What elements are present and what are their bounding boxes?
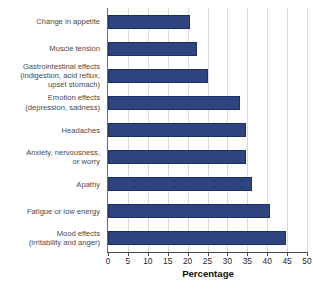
category-label: Mood effects (irritability and anger): [0, 229, 100, 248]
x-axis-tick-labels: 05101520253035404550: [0, 256, 313, 268]
x-axis-tick-label: 30: [223, 256, 232, 266]
category-label: Emotion effects (depression, sadness): [0, 93, 100, 112]
category-axis-labels: Change in appetiteMuscle tensionGastroin…: [0, 8, 104, 252]
bar: [108, 69, 208, 83]
x-axis-tick-label: 0: [106, 256, 111, 266]
x-axis-title: Percentage: [108, 268, 308, 279]
bar: [108, 96, 240, 110]
gridline: [307, 8, 308, 252]
category-label: Headaches: [0, 126, 100, 135]
bar-chart: Change in appetiteMuscle tensionGastroin…: [0, 0, 313, 292]
x-axis-tick-label: 10: [143, 256, 152, 266]
x-axis-tick-label: 5: [126, 256, 131, 266]
x-axis-tick-label: 25: [203, 256, 212, 266]
x-axis-tick-label: 40: [263, 256, 272, 266]
bar: [108, 231, 286, 245]
bar: [108, 150, 246, 164]
category-label: Gastrointestinal effects (indigestion, a…: [0, 62, 100, 90]
gridline: [287, 8, 288, 252]
category-label: Muscle tension: [0, 44, 100, 53]
bar: [108, 123, 246, 137]
category-label: Anxiety, nervousness, or worry: [0, 148, 100, 167]
x-axis-tick-label: 20: [183, 256, 192, 266]
x-axis-tick-label: 45: [282, 256, 291, 266]
x-axis-tick-label: 15: [163, 256, 172, 266]
bar: [108, 42, 197, 56]
category-label: Change in appetite: [0, 17, 100, 26]
bar: [108, 177, 252, 191]
category-label: Apathy: [0, 180, 100, 189]
x-axis-tick-label: 35: [243, 256, 252, 266]
bar: [108, 15, 190, 29]
plot-area: [108, 8, 307, 252]
x-axis-tick-label: 50: [302, 256, 311, 266]
category-label: Fatigue or low energy: [0, 207, 100, 216]
bar: [108, 204, 270, 218]
